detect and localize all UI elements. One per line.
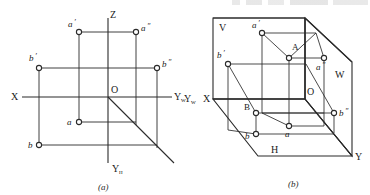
- prime-mark-b-b-double-prime: ″: [345, 107, 349, 116]
- prime-mark-b-b-prime: ′: [223, 49, 225, 58]
- marker-b-prime[interactable]: [36, 65, 41, 70]
- label-b-prime: b ′: [29, 52, 37, 63]
- label-b-plain: b: [28, 140, 33, 150]
- label-b-point-B: B: [244, 102, 250, 112]
- marker-b-b-prime[interactable]: [225, 61, 230, 66]
- svg-text:a: a: [252, 20, 257, 30]
- label-axis-yw-b-subscript: W: [191, 100, 196, 105]
- label-a-prime: a ′: [68, 18, 76, 29]
- label-axis-yh-subscript: H: [119, 170, 123, 175]
- line-b-to-a-left: [262, 113, 289, 126]
- label-axis-yh: Y H: [112, 163, 123, 175]
- label-origin-a: O: [111, 84, 118, 95]
- line-b-to-bplain-left: [228, 130, 256, 134]
- diagram-b: V W H X Y W Y O A B a ′ a ″ a: [184, 18, 362, 189]
- svg-text:b: b: [29, 53, 34, 63]
- svg-text:a: a: [141, 23, 146, 33]
- label-b-a-double-prime: a ″: [316, 61, 326, 72]
- label-plane-w: W: [335, 69, 345, 80]
- prime-mark-a-double-prime: ″: [147, 22, 151, 31]
- label-axis-x: X: [11, 91, 19, 102]
- label-axis-yw-b: Y W: [184, 93, 196, 105]
- label-plane-h: H: [271, 144, 278, 155]
- label-b-b-plain: b: [245, 131, 250, 141]
- label-axis-x-b: X: [203, 93, 211, 104]
- label-b-a-plain: a: [285, 129, 290, 139]
- line-b-bprime-to-B: [228, 64, 256, 113]
- marker-b-b-double-prime[interactable]: [331, 110, 336, 115]
- marker-b-point-B[interactable]: [253, 110, 258, 115]
- prime-mark-b-double-prime: ″: [168, 58, 172, 67]
- label-b-a-prime: a ′: [252, 19, 260, 30]
- marker-b-b-plain[interactable]: [253, 131, 258, 136]
- caption-subfigure-a: (a): [98, 182, 109, 192]
- line-b-corner-to-adoubleprime: [316, 33, 324, 58]
- label-b-b-prime: b ′: [217, 49, 225, 60]
- label-axis-z: Z: [110, 9, 116, 20]
- marker-b-a-plain[interactable]: [286, 123, 291, 128]
- prime-mark-b-a-double-prime: ″: [322, 61, 326, 70]
- caption-subfigure-b: (b): [288, 179, 299, 189]
- marker-b-a-prime[interactable]: [259, 30, 264, 35]
- svg-text:b: b: [217, 50, 222, 60]
- technical-drawing-canvas: X Z Y W Y H O a ′ a ″ b ′: [0, 0, 370, 195]
- svg-text:b: b: [162, 59, 167, 69]
- diagram-a: X Z Y W Y H O a ′ a ″ b ′: [11, 9, 186, 192]
- label-origin-b: O: [307, 86, 314, 97]
- svg-text:a: a: [316, 62, 321, 72]
- svg-text:b: b: [245, 131, 250, 141]
- marker-b-plain[interactable]: [36, 142, 41, 147]
- prime-mark-a-prime: ′: [74, 18, 76, 27]
- prime-mark-b-a-prime: ′: [258, 19, 260, 28]
- marker-a-prime[interactable]: [76, 29, 81, 34]
- page-text-bleed-artifact: [232, 0, 368, 5]
- prime-mark-b-prime: ′: [35, 52, 37, 61]
- marker-a-plain[interactable]: [76, 119, 81, 124]
- label-plane-v: V: [219, 22, 227, 33]
- label-b-point-A: A: [292, 42, 299, 52]
- label-b-b-double-prime: b ″: [339, 107, 349, 118]
- label-axis-y-b: Y: [355, 151, 362, 162]
- label-a-double-prime: a ″: [141, 22, 151, 33]
- marker-b-double-prime[interactable]: [154, 65, 159, 70]
- label-b-double-prime: b ″: [162, 58, 172, 69]
- bisector-line-45deg: [108, 97, 174, 163]
- svg-text:b: b: [339, 108, 344, 118]
- svg-text:a: a: [68, 19, 73, 29]
- marker-b-a-double-prime[interactable]: [321, 55, 326, 60]
- marker-b-point-A[interactable]: [286, 55, 291, 60]
- line-b-aprime-to-A: [262, 33, 289, 58]
- figure-root: X Z Y W Y H O a ′ a ″ b ′: [0, 0, 370, 195]
- marker-a-double-prime[interactable]: [133, 29, 138, 34]
- label-a-plain: a: [67, 117, 72, 127]
